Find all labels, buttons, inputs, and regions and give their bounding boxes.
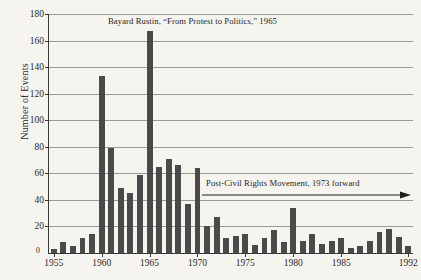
x-axis-tick-mark [54,253,55,257]
bar [348,248,354,253]
bar [338,238,344,253]
bar [185,204,191,253]
y-axis-tick-label: 160 [30,36,44,46]
bar [89,234,95,253]
x-axis-tick-mark [150,253,151,257]
annotation-rustin: Bayard Rustin, “From Protest to Politics… [108,16,277,26]
x-axis-tick-mark [341,253,342,257]
bar [99,76,105,253]
y-axis-tick-label: 120 [30,89,44,99]
bar [290,208,296,253]
bar [80,238,86,253]
x-axis-tick-label: 1992 [399,258,418,268]
bar [175,165,181,253]
x-axis-tick-label: 1960 [92,258,111,268]
y-axis-tick-label: 20 [35,221,45,231]
x-axis-tick-mark [102,253,103,257]
bar [195,168,201,253]
bar [137,175,143,253]
y-axis-tick-label: 140 [30,62,44,72]
bar [242,234,248,253]
bar [233,236,239,253]
bar-series [49,14,413,253]
y-axis-title: Number of Events [19,32,30,172]
bar [309,234,315,253]
bar [319,244,325,253]
bar [156,167,162,253]
bar [70,246,76,253]
y-axis-tick-label: 40 [35,195,45,205]
x-axis-tick-mark [293,253,294,257]
x-axis-tick-label: 1980 [284,258,303,268]
x-axis-tick-mark [245,253,246,257]
bar [204,226,210,253]
bar [262,238,268,253]
x-axis-tick-label: 1975 [236,258,255,268]
bar [281,242,287,253]
bar [367,241,373,253]
y-axis-tick-label: 180 [30,9,44,19]
y-axis-tick-label: 60 [35,168,45,178]
bar [405,246,411,253]
bar [377,232,383,253]
plot-area: 20406080100120140160180 1955196019651970… [48,14,413,254]
y-axis-tick-label: 80 [35,142,45,152]
bar [223,238,229,253]
x-axis-tick-label: 1955 [44,258,63,268]
annotation-arrow-icon [202,191,412,200]
x-axis-tick-label: 1970 [188,258,207,268]
annotation-post-civil-rights: Post-Civil Rights Movement, 1973 forward [206,178,360,188]
bar [329,241,335,253]
bar [300,241,306,253]
bar [357,246,363,253]
bar [108,148,114,253]
bar [147,31,153,253]
bar [396,237,402,253]
bar [60,242,66,253]
bar [127,193,133,253]
chart-page: Number of Events 0 204060801001201401601… [0,0,421,280]
x-axis-tick-label: 1985 [332,258,351,268]
x-axis-tick-mark [408,253,409,257]
x-axis-tick-label: 1965 [140,258,159,268]
x-axis-tick-mark [197,253,198,257]
bar [214,217,220,253]
y-axis-zero-label: 0 [36,246,40,255]
bar [386,229,392,253]
bar [166,159,172,253]
y-axis-tick-label: 100 [30,115,44,125]
bar [118,188,124,253]
bar [271,230,277,253]
bar [252,245,258,253]
